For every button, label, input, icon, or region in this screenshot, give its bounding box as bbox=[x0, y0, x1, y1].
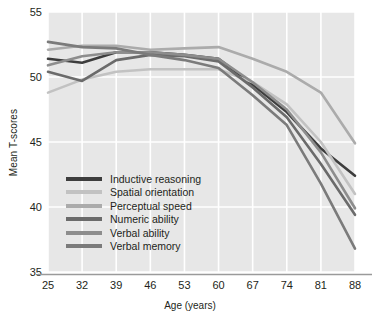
chart-legend: Inductive reasoningSpatial orientationPe… bbox=[66, 172, 201, 253]
legend-item-label: Verbal ability bbox=[110, 228, 170, 239]
legend-item: Verbal memory bbox=[66, 240, 201, 254]
x-axis-tick-label: 60 bbox=[212, 279, 224, 291]
legend-color-swatch bbox=[66, 190, 102, 194]
plot-area bbox=[0, 0, 380, 322]
legend-item-label: Numeric ability bbox=[110, 214, 179, 225]
legend-color-swatch bbox=[66, 204, 102, 208]
legend-color-swatch bbox=[66, 177, 102, 181]
x-axis-title-wrapper: Age (years) bbox=[0, 300, 380, 311]
legend-color-swatch bbox=[66, 217, 102, 221]
legend-item-label: Spatial orientation bbox=[110, 187, 194, 198]
x-axis-tick-labels: 25323946536067748188 bbox=[0, 279, 380, 295]
x-axis-tick-label: 53 bbox=[178, 279, 190, 291]
x-axis-tick-label: 25 bbox=[42, 279, 54, 291]
legend-color-swatch bbox=[66, 244, 102, 248]
chart-container: Mean T-scores 3540455055 253239465360677… bbox=[0, 0, 380, 322]
legend-item-label: Inductive reasoning bbox=[110, 174, 201, 185]
legend-item: Numeric ability bbox=[66, 213, 201, 227]
x-axis-tick-label: 74 bbox=[281, 279, 293, 291]
x-axis-tick-label: 67 bbox=[247, 279, 259, 291]
legend-item-label: Perceptual speed bbox=[110, 201, 192, 212]
legend-item: Perceptual speed bbox=[66, 199, 201, 213]
legend-item: Verbal ability bbox=[66, 226, 201, 240]
x-axis-tick-label: 88 bbox=[349, 279, 361, 291]
x-axis-tick-label: 32 bbox=[76, 279, 88, 291]
x-axis-tick-label: 39 bbox=[110, 279, 122, 291]
legend-item-label: Verbal memory bbox=[110, 241, 181, 252]
x-axis-title: Age (years) bbox=[164, 300, 216, 311]
x-axis-tick-label: 81 bbox=[315, 279, 327, 291]
legend-item: Inductive reasoning bbox=[66, 172, 201, 186]
legend-item: Spatial orientation bbox=[66, 186, 201, 200]
x-axis-tick-label: 46 bbox=[144, 279, 156, 291]
legend-color-swatch bbox=[66, 231, 102, 235]
